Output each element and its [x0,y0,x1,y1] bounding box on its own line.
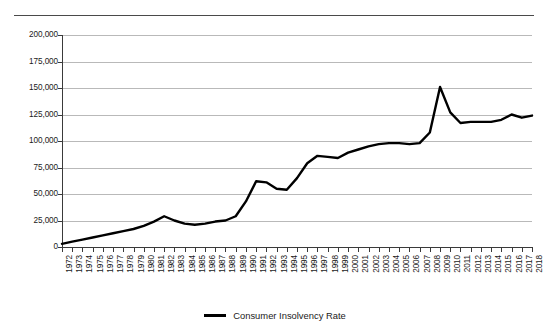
x-axis-tick-mark [512,247,513,252]
x-axis-tick-label: 2013 [485,255,493,273]
x-axis-tick-label: 1976 [107,255,115,273]
y-axis-tick-label: 175,000 [4,58,58,66]
x-axis-tick-label: 1994 [291,255,299,273]
x-axis-tick-mark [236,247,237,252]
x-axis-tick-mark [277,247,278,252]
x-axis-tick-mark [185,247,186,252]
x-axis-tick-mark [348,247,349,252]
x-axis-tick-mark [420,247,421,252]
x-axis-tick-mark [164,247,165,252]
x-axis-tick-label: 1997 [321,255,329,273]
chart-legend: Consumer Insolvency Rate [0,310,550,321]
legend-item-label: Consumer Insolvency Rate [233,310,346,321]
x-axis-tick-label: 1998 [332,255,340,273]
y-axis-tick: 100,000 [0,137,58,146]
x-axis-tick-mark [287,247,288,252]
y-axis-tick: 175,000 [0,58,58,67]
x-axis-tick-label: 1977 [117,255,125,273]
x-axis-tick-mark [460,247,461,252]
x-axis-tick-label: 1996 [311,255,319,273]
y-axis-tick-label: 50,000 [4,190,58,198]
x-axis-tick-mark [481,247,482,252]
x-axis-tick-label: 2004 [393,255,401,273]
x-axis-tick-mark [266,247,267,252]
x-axis-tick-mark [215,247,216,252]
x-axis-tick-label: 1995 [301,255,309,273]
x-axis-tick-label: 1978 [127,255,135,273]
x-axis-tick-mark [113,247,114,252]
x-axis-tick-label: 1982 [168,255,176,273]
x-axis-tick-label: 1988 [229,255,237,273]
x-axis-tick-mark [369,247,370,252]
x-axis-tick-mark [532,247,533,252]
y-axis-tick: 0 [0,243,58,252]
y-axis-tick: 25,000 [0,217,58,226]
x-axis-tick-label: 2011 [464,255,472,272]
x-axis-tick-mark [297,247,298,252]
x-axis-tick-mark [93,247,94,252]
x-axis-tick-label: 1999 [342,255,350,273]
x-axis-tick-label: 2012 [475,255,483,273]
y-axis-tick: 125,000 [0,111,58,120]
x-axis-tick-mark [491,247,492,252]
x-axis-tick-label: 2007 [424,255,432,273]
x-axis-tick-label: 1991 [260,255,268,273]
x-axis-tick-label: 1980 [148,255,156,273]
x-axis-tick-label: 2017 [526,255,534,273]
x-axis-tick-label: 1974 [86,255,94,273]
x-axis-tick-mark [409,247,410,252]
x-axis-tick-mark [195,247,196,252]
y-axis-tick: 75,000 [0,164,58,173]
x-axis-tick-mark [399,247,400,252]
x-axis-tick-mark [225,247,226,252]
x-axis-tick-label: 2002 [373,255,381,273]
x-axis-tick-label: 1990 [250,255,258,273]
x-axis-tick-label: 2010 [454,255,462,273]
x-axis-tick-label: 2016 [516,255,524,273]
legend-item: Consumer Insolvency Rate [204,310,346,321]
y-axis-tick-label: 75,000 [4,164,58,172]
x-axis-tick-mark [103,247,104,252]
x-axis-tick-mark [379,247,380,252]
x-axis-tick-label: 2001 [362,255,370,273]
x-axis-tick-mark [123,247,124,252]
y-axis-tick-label: 0 [4,243,58,251]
x-axis-tick-mark [72,247,73,252]
x-axis-tick-mark [522,247,523,252]
x-axis-tick-mark [256,247,257,252]
x-axis-tick-mark [134,247,135,252]
x-axis-tick-mark [430,247,431,252]
x-axis-tick-label: 1979 [138,255,146,273]
plot-area-frame [62,35,532,247]
y-axis-tick: 150,000 [0,84,58,93]
x-axis-tick-label: 2008 [434,255,442,273]
x-axis-tick-label: 1987 [219,255,227,273]
x-axis-tick-mark [62,247,63,252]
x-axis-tick-mark [328,247,329,252]
x-axis-tick-label: 1984 [189,255,197,273]
x-axis-tick-label: 1975 [97,255,105,273]
x-axis-tick-label: 1993 [281,255,289,273]
x-axis-tick-label: 1972 [66,255,74,273]
x-axis-tick-mark [450,247,451,252]
y-axis-tick-label: 200,000 [4,31,58,39]
x-axis-tick-label: 1989 [240,255,248,273]
x-axis-tick-mark [82,247,83,252]
x-axis-tick-label: 1986 [209,255,217,273]
x-axis-tick-mark [338,247,339,252]
x-axis-tick-mark [246,247,247,252]
x-axis-tick-mark [154,247,155,252]
x-axis-tick-label: 2006 [413,255,421,273]
y-axis-tick-label: 125,000 [4,111,58,119]
x-axis-tick-label: 1973 [76,255,84,273]
y-axis-tick-label: 100,000 [4,137,58,145]
y-axis-tick: 50,000 [0,190,58,199]
x-axis-tick-label: 1992 [270,255,278,273]
x-axis-tick-label: 2005 [403,255,411,273]
y-axis-tick: 200,000 [0,31,58,40]
chart-figure: 200,000175,000150,000125,000100,00075,00… [0,0,550,335]
x-axis-tick-label: 1981 [158,255,166,273]
x-axis-tick-mark [307,247,308,252]
x-axis-tick-mark [174,247,175,252]
x-axis-tick-label: 2003 [383,255,391,273]
